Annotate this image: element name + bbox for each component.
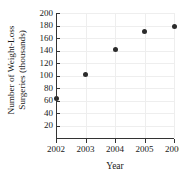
x-tick-label: 2004 <box>106 144 124 154</box>
x-tick-mark <box>86 139 87 143</box>
y-tick-label: 60 <box>44 96 53 105</box>
x-axis-title: Year <box>56 161 174 171</box>
weight-loss-surgeries-scatter-chart: Number of Weight-Loss Surgeries (thousan… <box>0 0 179 183</box>
data-point <box>172 24 177 29</box>
x-tick-mark <box>115 139 116 143</box>
y-tick-label: 180 <box>40 21 54 30</box>
y-axis-tick-labels: 20406080100120140160180200 <box>30 0 54 142</box>
y-tick-label: 100 <box>40 71 54 80</box>
x-axis-tick-labels: 20022003200420052006 <box>40 144 179 158</box>
y-tick-label: 140 <box>40 46 54 55</box>
gridline-vertical <box>174 13 175 138</box>
gridline-vertical <box>115 13 116 138</box>
x-tick-label: 2002 <box>47 144 65 154</box>
y-tick-label: 20 <box>44 121 53 130</box>
data-point <box>113 47 118 52</box>
data-point <box>142 29 147 34</box>
y-axis-title-line2: Surgeries (thousands) <box>17 26 28 115</box>
x-tick-label: 2006 <box>165 144 179 154</box>
y-tick-label: 160 <box>40 34 54 43</box>
x-tick-mark <box>145 139 146 143</box>
y-tick-label: 40 <box>44 109 53 118</box>
y-axis-line <box>56 13 57 139</box>
x-tick-mark <box>174 139 175 143</box>
plot-area <box>56 13 174 138</box>
y-tick-label: 80 <box>44 84 53 93</box>
y-axis-title-line1: Number of Weight-Loss <box>6 26 17 115</box>
y-tick-label: 120 <box>40 59 54 68</box>
x-tick-label: 2003 <box>77 144 95 154</box>
y-axis-title: Number of Weight-Loss Surgeries (thousan… <box>0 0 34 140</box>
x-tick-label: 2005 <box>136 144 154 154</box>
x-tick-mark <box>56 139 57 143</box>
data-point <box>83 72 88 77</box>
y-tick-label: 200 <box>40 9 54 18</box>
